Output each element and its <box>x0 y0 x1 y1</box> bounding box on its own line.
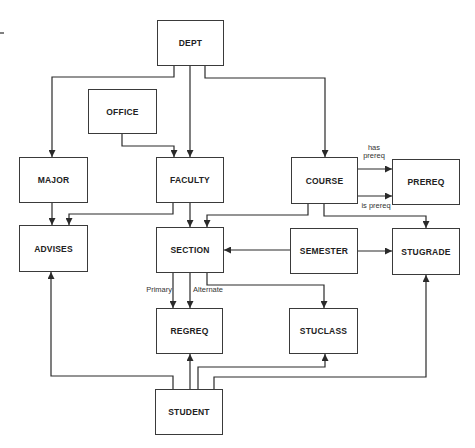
edge-label-alternate: Alternate <box>193 286 233 294</box>
entity-faculty: FACULTY <box>156 157 224 203</box>
entity-regreq: REGREQ <box>156 308 223 354</box>
entity-course-label: COURSE <box>306 176 344 186</box>
entity-student-label: STUDENT <box>168 407 210 417</box>
edge-dept-course <box>205 66 325 157</box>
entity-stugrade-label: STUGRADE <box>401 247 450 257</box>
edge-office-faculty <box>122 134 174 157</box>
entity-section: SECTION <box>156 227 224 273</box>
entity-advises-label: ADVISES <box>34 244 73 254</box>
entity-stugrade: STUGRADE <box>392 228 460 275</box>
entity-office: OFFICE <box>88 89 157 134</box>
entity-section-label: SECTION <box>170 245 209 255</box>
entity-prereq: PREREQ <box>392 159 460 205</box>
entity-dept: DEPT <box>157 20 224 66</box>
entity-student: STUDENT <box>155 389 223 435</box>
edge-label-has-prereq: has prereq <box>360 144 388 160</box>
edge-label-is-prereq: is prereq <box>358 202 394 210</box>
entity-advises: ADVISES <box>19 225 88 272</box>
entity-regreq-label: REGREQ <box>170 326 208 336</box>
entity-stuclass-label: STUCLASS <box>300 326 347 336</box>
entity-major: MAJOR <box>19 157 88 203</box>
entity-faculty-label: FACULTY <box>170 175 210 185</box>
entity-semester: SEMESTER <box>290 228 358 274</box>
entity-stuclass: STUCLASS <box>289 308 358 354</box>
diagram-canvas: DEPT OFFICE MAJOR FACULTY COURSE PREREQ … <box>0 0 475 448</box>
edge-course-section <box>207 204 308 227</box>
connector-layer <box>0 0 475 448</box>
entity-office-label: OFFICE <box>106 107 138 117</box>
edge-faculty-advises <box>69 203 173 225</box>
entity-prereq-label: PREREQ <box>407 177 444 187</box>
edge-student-stuclass <box>198 354 325 389</box>
entity-major-label: MAJOR <box>38 175 70 185</box>
entity-course: COURSE <box>291 157 358 204</box>
edge-label-primary: Primary <box>140 286 172 294</box>
entity-dept-label: DEPT <box>179 38 202 48</box>
entity-semester-label: SEMESTER <box>300 246 348 256</box>
